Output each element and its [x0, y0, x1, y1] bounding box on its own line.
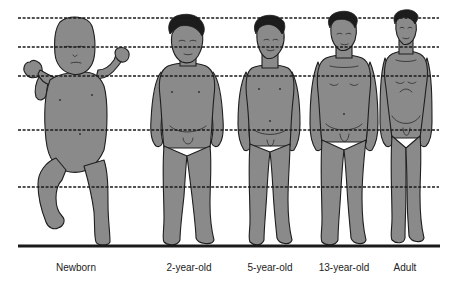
label-newborn: Newborn: [56, 262, 96, 273]
figure-newborn: [24, 17, 129, 245]
label-thirteen-year-old: 13-year-old: [319, 262, 370, 273]
label-two-year-old: 2-year-old: [166, 262, 211, 273]
proportion-diagram: [0, 0, 458, 285]
label-five-year-old: 5-year-old: [247, 262, 292, 273]
label-adult: Adult: [394, 262, 417, 273]
figure-thirteen-year-old: [310, 11, 378, 245]
figure-adult: [380, 10, 432, 243]
